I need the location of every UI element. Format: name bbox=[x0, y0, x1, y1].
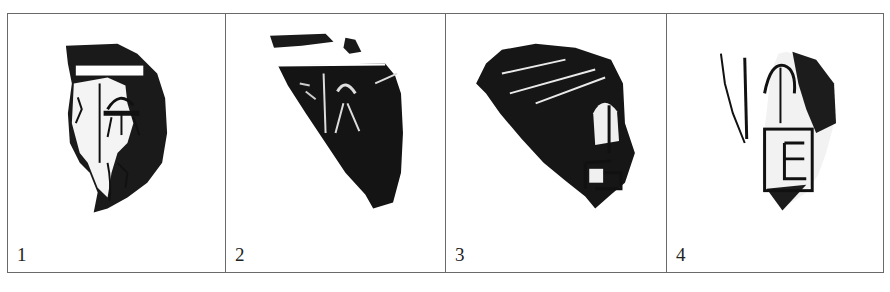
figure-plate: 1 2 3 bbox=[7, 13, 884, 273]
panel-label: 2 bbox=[235, 244, 245, 266]
panel-1: 1 bbox=[8, 14, 226, 272]
panel-4: 4 bbox=[667, 14, 883, 272]
panel-label: 4 bbox=[676, 244, 686, 266]
panel-label: 1 bbox=[17, 244, 27, 266]
rubbing-fragment-3 bbox=[446, 14, 666, 272]
rubbing-fragment-1 bbox=[8, 14, 225, 272]
rubbing-fragment-2 bbox=[226, 14, 445, 272]
rubbing-fragment-4 bbox=[667, 14, 883, 272]
panel-label: 3 bbox=[455, 244, 465, 266]
panel-3: 3 bbox=[446, 14, 667, 272]
panel-2: 2 bbox=[226, 14, 446, 272]
